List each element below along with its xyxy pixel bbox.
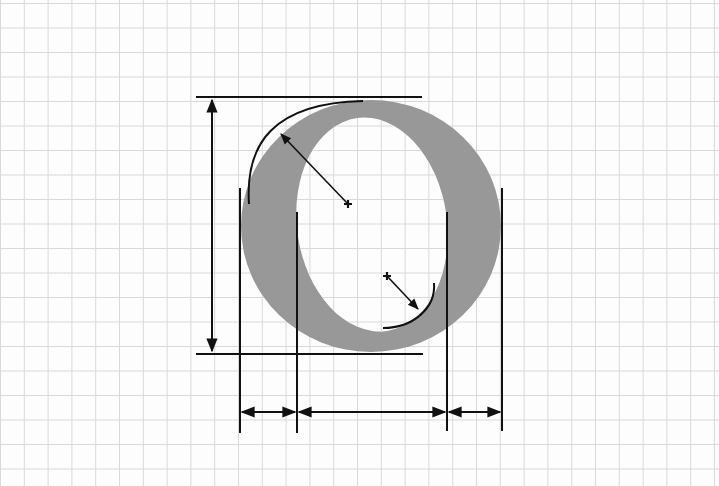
letter-o-glyph — [0, 0, 719, 486]
letter-o-construction-diagram — [0, 0, 719, 486]
diagram-canvas: Construction of letter O with measuremen… — [0, 0, 719, 486]
